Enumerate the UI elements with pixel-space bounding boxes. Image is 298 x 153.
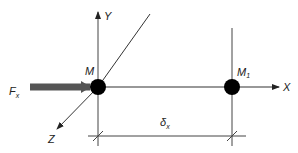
point-m xyxy=(90,79,106,95)
force-label: Fx xyxy=(9,85,20,99)
point-m1 xyxy=(224,79,240,95)
x-axis-label: X xyxy=(282,81,291,93)
z-axis-label: Z xyxy=(47,133,56,145)
point-m1-label: M1 xyxy=(237,66,250,79)
z-axis xyxy=(57,87,98,129)
dimension-label: δx xyxy=(160,116,170,130)
y-axis-label: Y xyxy=(104,10,112,22)
z-axis-upper xyxy=(98,14,150,87)
point-m-label: M xyxy=(85,65,95,77)
coordinate-diagram: Y Z X δx Fx M M1 xyxy=(0,0,298,153)
